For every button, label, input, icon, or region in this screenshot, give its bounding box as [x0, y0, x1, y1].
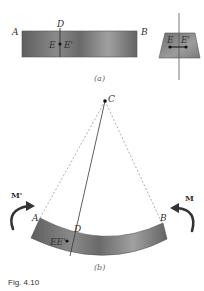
- panel-a-label: (a): [94, 74, 105, 83]
- label-e-prime: E': [63, 40, 73, 50]
- moment-arrow-left: [11, 206, 28, 229]
- moment-arrow-right: [177, 208, 193, 231]
- moment-arrowhead-left: [26, 201, 35, 211]
- dashed-line-cb: [105, 101, 162, 223]
- label-d: D: [56, 19, 64, 29]
- section-point-e-prime: [184, 45, 187, 48]
- panel-b: C A B D EE' M' M (b): [11, 94, 194, 272]
- straight-beam: [22, 31, 137, 57]
- label-m-prime: M': [11, 190, 22, 200]
- cross-section: [159, 33, 200, 58]
- figure-canvas: A D B E E' E E' (a) C A B D EE' M' M: [0, 0, 204, 291]
- panel-a: A D B E E' E E' (a): [11, 13, 200, 83]
- section-point-e: [168, 45, 171, 48]
- section-label-e-prime: E': [180, 35, 190, 45]
- label-c: C: [108, 94, 115, 104]
- label-m: M: [185, 193, 194, 203]
- label-a: A: [11, 27, 19, 37]
- label-d-bent: D: [73, 224, 81, 234]
- panel-b-label: (b): [94, 263, 105, 272]
- figure-caption: Fig. 4.10: [8, 278, 40, 287]
- label-b: B: [140, 27, 148, 37]
- moment-arrowhead-right: [170, 203, 179, 213]
- point-ee-prime: [65, 239, 68, 242]
- section-label-e: E: [166, 35, 174, 45]
- label-e: E: [48, 40, 56, 50]
- point-e: [58, 42, 61, 45]
- center-point-c: [103, 99, 107, 103]
- dashed-line-ca: [40, 101, 105, 218]
- label-b-bent: B: [159, 213, 167, 223]
- label-a-bent: A: [31, 213, 39, 223]
- label-ee-prime: EE': [49, 237, 66, 247]
